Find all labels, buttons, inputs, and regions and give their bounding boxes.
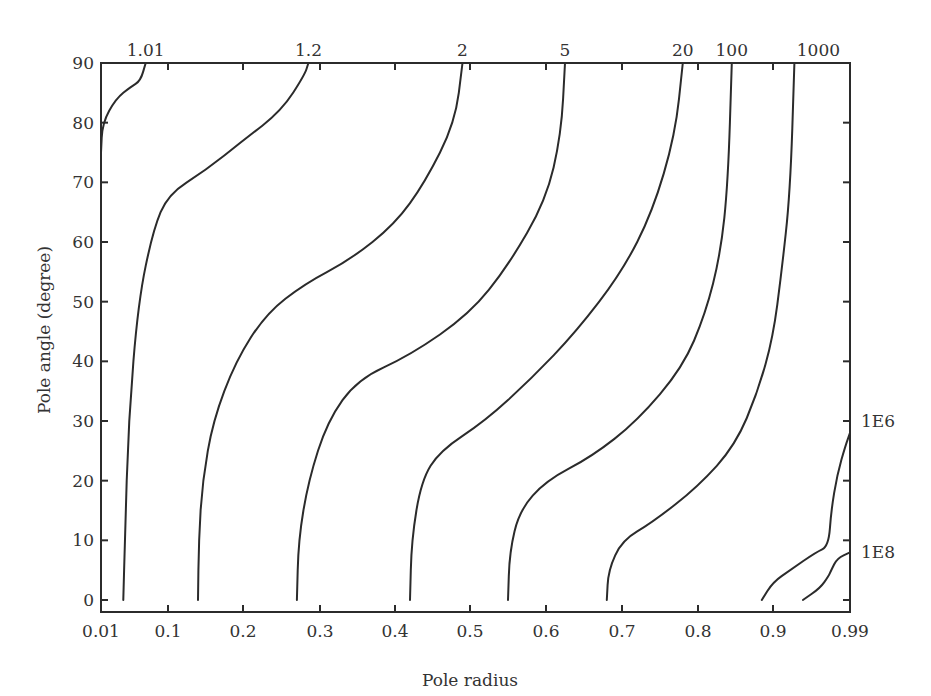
contour-line-20 <box>410 63 683 600</box>
y-tick-label: 30 <box>72 411 94 431</box>
x-tick-label: 0.4 <box>381 621 408 641</box>
contour-label: 1E6 <box>861 411 895 431</box>
y-tick-label: 0 <box>83 590 94 610</box>
y-tick-label: 80 <box>72 113 94 133</box>
y-tick-label: 70 <box>72 172 94 192</box>
contour-line-2 <box>198 63 463 600</box>
y-tick-label: 40 <box>72 351 94 371</box>
x-tick-label: 0.01 <box>82 621 120 641</box>
contour-line-1.2 <box>123 63 308 600</box>
contour-line-1.01 <box>101 63 146 153</box>
contour-label: 20 <box>672 40 694 60</box>
x-tick-label: 0.8 <box>684 621 711 641</box>
contour-label: 100 <box>716 40 748 60</box>
y-tick-label: 90 <box>72 53 94 73</box>
x-tick-label: 0.9 <box>759 621 786 641</box>
x-tick-label: 0.5 <box>456 621 483 641</box>
contour-line-1000 <box>607 63 795 600</box>
x-tick-label: 0.2 <box>229 621 256 641</box>
y-tick-label: 20 <box>72 471 94 491</box>
x-tick-label: 0.6 <box>532 621 559 641</box>
y-axis-title: Pole angle (degree) <box>34 246 54 414</box>
x-axis-title: Pole radius <box>422 670 518 690</box>
x-tick-label: 0.99 <box>831 621 869 641</box>
contour-level-labels: 1.011.2252010010001E61E8 <box>127 40 895 562</box>
x-tick-label: 0.3 <box>306 621 333 641</box>
contour-chart: 0.010.10.20.30.40.50.60.70.80.90.99 0102… <box>0 0 931 696</box>
y-tick-label: 50 <box>72 292 94 312</box>
contour-line-1E8 <box>803 552 850 600</box>
contour-line-5 <box>297 63 565 600</box>
contour-lines <box>101 63 850 600</box>
contour-label: 2 <box>457 40 468 60</box>
contour-line-100 <box>508 63 732 600</box>
plot-frame <box>101 63 850 612</box>
contour-label: 1.01 <box>127 40 165 60</box>
contour-label: 5 <box>560 40 571 60</box>
contour-line-1E6 <box>762 433 850 600</box>
y-tick-label: 10 <box>72 530 94 550</box>
y-tick-label: 60 <box>72 232 94 252</box>
x-tick-label: 0.7 <box>608 621 635 641</box>
x-axis-ticks: 0.010.10.20.30.40.50.60.70.80.90.99 <box>82 63 869 641</box>
contour-label: 1E8 <box>861 542 895 562</box>
contour-label: 1.2 <box>295 40 322 60</box>
contour-label: 1000 <box>797 40 840 60</box>
x-tick-label: 0.1 <box>154 621 181 641</box>
y-axis-ticks: 0102030405060708090 <box>72 53 850 610</box>
